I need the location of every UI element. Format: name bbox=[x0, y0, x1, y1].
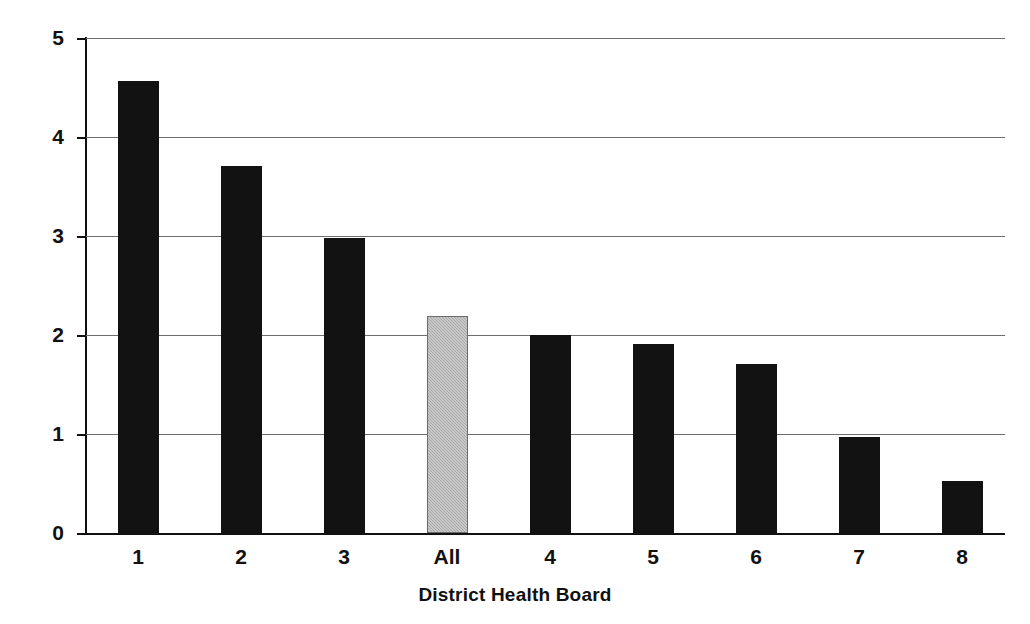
x-tick-label-4: 4 bbox=[505, 545, 595, 569]
bar-4 bbox=[530, 335, 571, 533]
bar-2 bbox=[221, 166, 262, 533]
plot-area bbox=[85, 38, 1005, 533]
y-tick-label: 2 bbox=[8, 323, 64, 347]
y-tick-label: 4 bbox=[8, 125, 64, 149]
x-tick-label-6: 6 bbox=[711, 545, 801, 569]
gridline-4 bbox=[85, 137, 1005, 138]
y-tick-label: 0 bbox=[8, 521, 64, 545]
bar-6 bbox=[736, 364, 777, 533]
x-tick-label-3: 3 bbox=[299, 545, 389, 569]
bar-chart: Average HoNOS improvement 012345 123All4… bbox=[0, 0, 1030, 624]
y-tick-mark bbox=[77, 38, 86, 40]
x-tick-label-2: 2 bbox=[196, 545, 286, 569]
bar-7 bbox=[839, 437, 880, 533]
x-tick-label-5: 5 bbox=[608, 545, 698, 569]
x-tick-label-7: 7 bbox=[814, 545, 904, 569]
x-tick-label-8: 8 bbox=[917, 545, 1007, 569]
y-tick-label: 5 bbox=[8, 26, 64, 50]
y-tick-mark bbox=[77, 533, 86, 535]
x-axis-title: District Health Board bbox=[0, 584, 1030, 606]
y-tick-mark bbox=[77, 434, 86, 436]
gridline-5 bbox=[85, 38, 1005, 39]
gridline-0 bbox=[85, 533, 1005, 535]
y-tick-mark bbox=[77, 137, 86, 139]
x-tick-label-All: All bbox=[402, 545, 492, 569]
bar-8 bbox=[942, 481, 983, 533]
bar-1 bbox=[118, 81, 159, 533]
bar-All bbox=[427, 316, 468, 533]
y-tick-label: 3 bbox=[8, 224, 64, 248]
bar-3 bbox=[324, 238, 365, 533]
bar-5 bbox=[633, 344, 674, 533]
y-tick-mark bbox=[77, 236, 86, 238]
y-tick-label: 1 bbox=[8, 422, 64, 446]
y-tick-mark bbox=[77, 335, 86, 337]
x-tick-label-1: 1 bbox=[93, 545, 183, 569]
